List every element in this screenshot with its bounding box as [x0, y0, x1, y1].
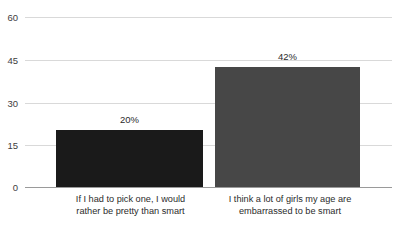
y-tick-label-15: 15	[7, 140, 18, 151]
bar-value-label-1: 20%	[120, 114, 139, 125]
bar-value-label-2: 42%	[278, 51, 297, 62]
gridline-45: 45	[25, 60, 392, 61]
x-axis-baseline: 0	[25, 187, 392, 188]
x-category-label-2: I think a lot of girls my age are embarr…	[205, 194, 375, 217]
y-tick-label-0: 0	[13, 182, 18, 193]
bar-embarrassed-to-be-smart[interactable]: 42%	[215, 67, 360, 187]
y-tick-label-30: 30	[7, 97, 18, 108]
gridline-60: 60	[25, 17, 392, 18]
x-category-label-1-line-1: If I had to pick one, I would	[48, 194, 213, 206]
y-tick-label-60: 60	[7, 12, 18, 23]
y-tick-label-45: 45	[7, 54, 18, 65]
x-category-label-2-line-1: I think a lot of girls my age are	[205, 194, 375, 206]
bar-chart: ···· 60 45 30 15 0 20% 42% If I had to p…	[0, 0, 399, 234]
x-category-label-1: If I had to pick one, I would rather be …	[48, 194, 213, 217]
x-category-label-1-line-2: rather be pretty than smart	[48, 206, 213, 218]
x-category-label-2-line-2: embarrassed to be smart	[205, 206, 375, 218]
bar-pretty-than-smart[interactable]: 20%	[56, 130, 203, 187]
plot-area: 60 45 30 15 0 20% 42%	[25, 17, 392, 188]
clipped-chart-title: ····	[123, 0, 183, 3]
